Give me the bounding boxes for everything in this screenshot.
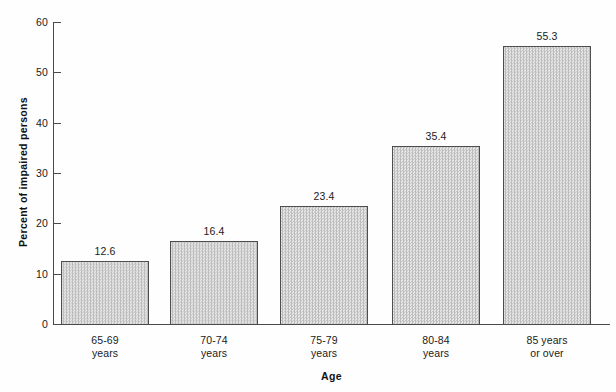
bar-value-label: 12.6 bbox=[61, 246, 149, 257]
x-axis-tick-label: 65-69years bbox=[45, 334, 165, 359]
x-axis-tick-label-line: or over bbox=[487, 347, 607, 360]
x-axis-tick-label: 85 yearsor over bbox=[487, 334, 607, 359]
x-axis-tick-label-line: 65-69 bbox=[45, 334, 165, 347]
y-axis-tick bbox=[54, 223, 61, 224]
x-axis-tick-label-line: years bbox=[45, 347, 165, 360]
y-axis-tick bbox=[54, 72, 61, 73]
bar-value-label: 23.4 bbox=[280, 191, 368, 202]
y-axis-tick bbox=[54, 173, 61, 174]
x-axis-title: Age bbox=[53, 370, 610, 382]
y-axis-tick-label-wrap: 0 bbox=[18, 319, 48, 330]
bar bbox=[61, 261, 149, 325]
x-axis-tick-label: 80-84years bbox=[376, 334, 496, 359]
bar-value-label: 16.4 bbox=[170, 226, 258, 237]
x-axis-tick-label-line: 75-79 bbox=[264, 334, 384, 347]
y-axis-tick bbox=[54, 274, 61, 275]
bar-value-label: 55.3 bbox=[503, 31, 591, 42]
y-axis-tick-label-wrap: 60 bbox=[18, 17, 48, 28]
x-axis-line bbox=[53, 324, 610, 325]
bar bbox=[170, 241, 258, 325]
y-axis-tick-label: 60 bbox=[22, 17, 48, 28]
x-axis-tick-label-line: years bbox=[154, 347, 274, 360]
x-axis-tick-label-line: 85 years bbox=[487, 334, 607, 347]
y-axis-tick bbox=[54, 22, 61, 23]
x-axis-tick-label-line: years bbox=[376, 347, 496, 360]
bar-value-label: 35.4 bbox=[392, 131, 480, 142]
bar bbox=[280, 206, 368, 325]
y-axis-tick bbox=[54, 123, 61, 124]
x-axis-tick-label: 75-79years bbox=[264, 334, 384, 359]
bar bbox=[503, 46, 591, 325]
x-axis-tick-label: 70-74years bbox=[154, 334, 274, 359]
x-axis-tick-label-line: years bbox=[264, 347, 384, 360]
y-axis-title: Percent of impaired persons bbox=[17, 72, 29, 272]
bar-chart: 0102030405060 Percent of impaired person… bbox=[0, 0, 616, 392]
x-axis-tick-label-line: 80-84 bbox=[376, 334, 496, 347]
y-axis-tick-label: 0 bbox=[22, 319, 48, 330]
x-axis-tick-label-line: 70-74 bbox=[154, 334, 274, 347]
bar bbox=[392, 146, 480, 325]
